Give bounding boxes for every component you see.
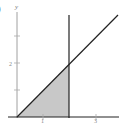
x-tick-label-1: 1 — [41, 118, 44, 124]
plot-area: y 2 1 3 — [0, 0, 121, 124]
y-axis-label: y — [14, 3, 19, 11]
x-tick-label-3: 3 — [94, 118, 97, 124]
y-tick-label-2: 2 — [9, 61, 12, 67]
